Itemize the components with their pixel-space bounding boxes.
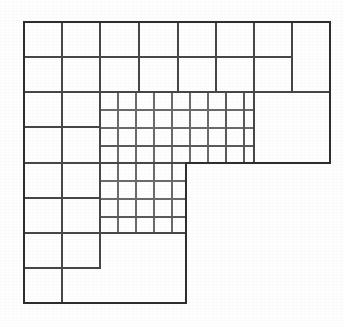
figure-canvas: Squared L-shaped region dissection An L-…: [0, 0, 344, 327]
squared-dissection-figure: [0, 0, 344, 327]
